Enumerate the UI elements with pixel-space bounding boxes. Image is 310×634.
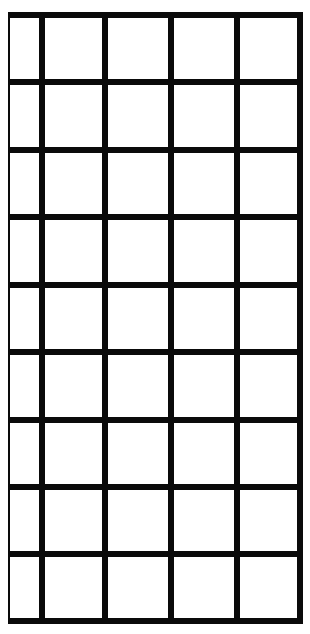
grid-horizontal-line-4	[8, 282, 303, 288]
grid-vertical-line-3	[168, 12, 174, 624]
grid-horizontal-line-1	[8, 79, 303, 85]
grid-horizontal-line-2	[8, 147, 303, 153]
grid-vertical-line-4	[234, 12, 240, 624]
grid-horizontal-line-7	[8, 484, 303, 490]
grid-horizontal-line-0	[8, 12, 303, 18]
grid-horizontal-line-9	[8, 618, 303, 624]
grid-horizontal-line-8	[8, 551, 303, 557]
grid-vertical-line-0	[8, 12, 10, 624]
grid-diagram	[0, 0, 310, 634]
grid-horizontal-line-6	[8, 417, 303, 423]
grid-vertical-line-5	[297, 12, 303, 624]
grid-vertical-line-2	[102, 12, 108, 624]
grid-horizontal-line-3	[8, 214, 303, 220]
grid-horizontal-line-5	[8, 349, 303, 355]
grid-vertical-line-1	[39, 12, 45, 624]
